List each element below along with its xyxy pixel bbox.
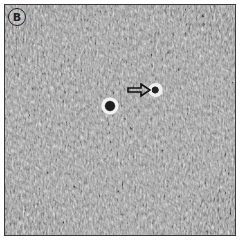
panel-label: B	[8, 8, 26, 26]
arrow-annotation-icon	[127, 83, 151, 97]
cell-culture-image	[5, 5, 235, 235]
micrograph-frame: B	[4, 4, 236, 236]
rounded-cell	[101, 97, 119, 115]
